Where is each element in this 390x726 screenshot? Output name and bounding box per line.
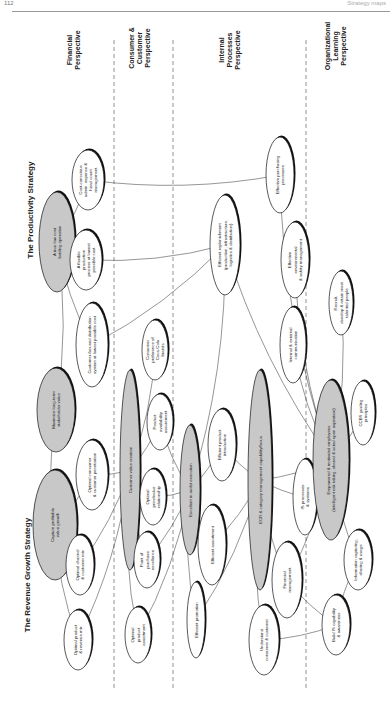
perspective-label-financial: FinancialPerspective: [66, 30, 82, 69]
productivity-strategy-title: The Productivity Strategy: [26, 161, 35, 258]
perspective-label-learning: OrganizationalLearningPerspective: [324, 22, 348, 71]
node-build-is: Build IS capability& awareness: [322, 594, 352, 656]
svg-text:Efficient assortment: Efficient assortment: [210, 525, 215, 563]
node-distribution: Customer-focused distributionsystem at l…: [76, 302, 110, 388]
edge-replenish-to-flexible: [86, 245, 225, 261]
svg-text:Customer-focused distributions: Customer-focused distributionsystem at l…: [87, 315, 97, 374]
svg-text:Efficient replenishment(produc: Efficient replenishment(production, infr…: [217, 220, 232, 270]
node-info: Information capturing,sharing & usage: [344, 529, 374, 591]
node-availability: Productavailabilityassurement: [147, 393, 175, 451]
svg-text:Maximize long-termstakeholder: Maximize long-termstakeholder value: [51, 391, 61, 429]
node-ecr: ECR & category management capability/foc…: [248, 369, 274, 591]
svg-text:Optimal channel& customer mix: Optimal channel& customer mix: [75, 549, 85, 580]
node-ccbs: CCBS guidingprinciples: [351, 380, 377, 446]
node-product-mix: Optimal product& revenue mix: [64, 609, 94, 671]
perspective-label-customer: Consumer &CustomerPerspective: [128, 27, 152, 69]
node-assortment: Optimalproductassortment: [125, 606, 153, 664]
svg-text:ECR & category management capa: ECR & category management capability/foc…: [258, 436, 263, 524]
node-purchasing: Effective purchasingprocesses: [266, 136, 296, 214]
node-costconscious: Cost-consciousadmin. expense &head count…: [72, 149, 106, 211]
node-financial-mgmt: Financialmanagement: [272, 541, 304, 619]
node-eff-assort: Efficient assortment: [198, 504, 228, 586]
svg-text:Internal & externalcommunicati: Internal & externalcommunication: [288, 328, 298, 363]
svg-text:IS processes& systems: IS processes& systems: [300, 485, 310, 510]
strategy-map: Maximize long-termstakeholder valueCaptu…: [0, 0, 390, 726]
node-flexible: A flexibleproductionprocess at lowestpos…: [70, 229, 104, 291]
node-channel-mix: Optimal channel& customer mix: [66, 534, 96, 596]
svg-text:Efficient promotion: Efficient promotion: [194, 602, 199, 638]
node-recruit: Recruit,develop & retain mosttalented pe…: [329, 270, 355, 336]
node-penetration: Optimal consumer& customer penetration: [76, 439, 110, 511]
node-pricevalue: Optimalprice/valuerelationship: [140, 468, 168, 526]
node-replenish: Efficient replenishment(production, infr…: [210, 194, 242, 296]
svg-text:Customer value creation: Customer value creation: [128, 446, 133, 493]
perspective-label-internal: InternalProcessesPerspective: [218, 30, 242, 69]
node-understand: Understandconsumer & customer: [249, 604, 281, 676]
node-lowcost: A true low costbottling operation: [39, 191, 77, 293]
node-promotion: Efficient promotion: [187, 581, 207, 659]
revenue-strategy-title: The Revenue Growth Strategy: [23, 517, 32, 632]
node-maximize: Maximize long-termstakeholder value: [37, 367, 77, 453]
node-empowered: Empowered & motivated employees(intellig…: [313, 379, 351, 541]
svg-text:Information capturing,sharing: Information capturing,sharing & usage: [353, 539, 363, 581]
node-introduction: Efficient productintroduction: [208, 408, 238, 482]
node-pop: Point ofpurchaseexcellence: [134, 531, 162, 589]
svg-text:Optimal consumer& customer pen: Optimal consumer& customer penetration: [87, 452, 97, 497]
node-communication: Internal & externalcommunication: [280, 306, 308, 384]
svg-text:A true low costbottling operat: A true low costbottling operation: [52, 225, 62, 259]
svg-text:Optimal product& revenue mix: Optimal product& revenue mix: [73, 624, 83, 655]
edge-purchasing-to-costconscious: [88, 175, 280, 185]
svg-text:Excellent in-outlet execution: Excellent in-outlet execution: [188, 463, 193, 517]
node-preference: Consumerpreference ofCoca-Colabrands: [142, 319, 170, 381]
